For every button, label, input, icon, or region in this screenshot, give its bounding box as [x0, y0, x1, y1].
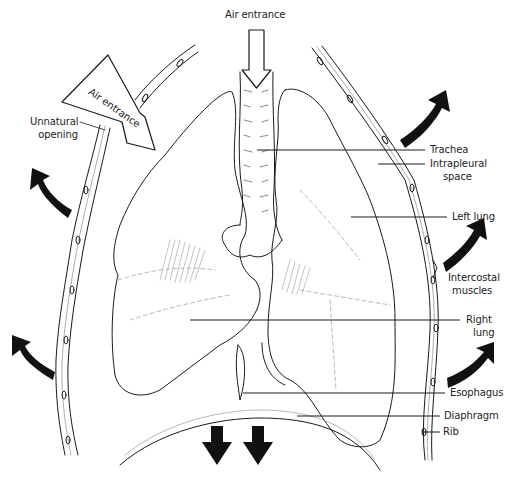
label-intrapleural-2: space — [443, 171, 472, 183]
label-rib: Rib — [443, 426, 459, 438]
air-entrance-top-arrow — [242, 30, 271, 88]
right-chest-wall — [312, 46, 438, 460]
esophagus-structure — [236, 343, 285, 400]
label-right-lung-2: lung — [473, 327, 494, 339]
label-left-lung: Left lung — [452, 211, 495, 223]
label-unnatural-opening-2: opening — [30, 129, 78, 141]
right-lung-outline — [112, 92, 260, 395]
label-unnatural-opening-1: Unnatural — [30, 116, 78, 128]
label-intercostal-2: muscles — [452, 285, 492, 297]
label-diaphragm: Diaphragm — [444, 410, 499, 422]
label-intrapleural-1: Intrapleural — [430, 158, 487, 170]
diaphragm-down-arrows — [202, 426, 273, 465]
label-trachea: Trachea — [430, 144, 468, 156]
trachea-structure — [222, 72, 282, 257]
label-intercostal-1: Intercostal — [448, 272, 500, 284]
label-right-lung-1: Right — [466, 314, 492, 326]
outward-arrows — [12, 90, 494, 388]
label-esophagus: Esophagus — [450, 387, 503, 399]
leader-lines — [190, 150, 460, 432]
thorax-illustration — [0, 0, 509, 485]
label-air-entrance-top: Air entrance — [225, 9, 285, 21]
